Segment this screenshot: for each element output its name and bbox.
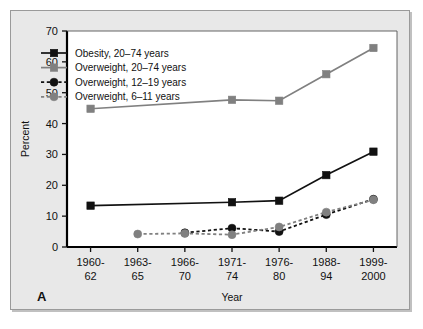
- legend-entry-label: Overweight, 6–11 years: [75, 91, 180, 102]
- series-marker-square: [87, 105, 94, 112]
- x-axis-ticks: 1960-621963-651966-701971-741976-801988-…: [77, 247, 388, 282]
- series-marker-circle: [228, 231, 236, 239]
- legend-entry-label: Obesity, 20–74 years: [75, 48, 169, 59]
- series-marker-square: [228, 199, 235, 206]
- figure-panel: 010203040506070 1960-621963-651966-70197…: [10, 10, 410, 310]
- x-tick-label: 1976-: [265, 256, 293, 268]
- x-tick-label: 70: [179, 270, 191, 282]
- x-tick-label: 1999-: [359, 256, 387, 268]
- series-marker-square: [275, 97, 282, 104]
- x-tick-label: 1963-: [124, 256, 152, 268]
- y-tick-label: 30: [46, 148, 58, 160]
- series-marker-square: [275, 197, 282, 204]
- panel-letter: A: [37, 289, 47, 304]
- y-axis-ticks: 010203040506070: [46, 25, 67, 253]
- x-tick-label: 62: [84, 270, 96, 282]
- x-tick-label: 1960-: [77, 256, 105, 268]
- legend-marker-square: [50, 64, 57, 71]
- x-tick-label: 2000: [361, 270, 385, 282]
- x-tick-label: 65: [132, 270, 144, 282]
- x-tick-label: 1971-: [218, 256, 246, 268]
- y-tick-label: 10: [46, 210, 58, 222]
- legend-entry-label: Overweight, 20–74 years: [75, 62, 186, 73]
- series-marker-circle: [134, 230, 142, 238]
- y-tick-label: 40: [46, 118, 58, 130]
- legend-entry-label: Overweight, 12–19 years: [75, 77, 186, 88]
- series-marker-square: [87, 202, 94, 209]
- x-tick-label: 94: [320, 270, 332, 282]
- y-axis-title: Percent: [19, 121, 31, 157]
- legend-marker-circle: [50, 78, 58, 86]
- legend-marker-square: [50, 49, 57, 56]
- series-marker-square: [323, 171, 330, 178]
- series-marker-circle: [275, 223, 283, 231]
- y-tick-label: 0: [52, 241, 58, 253]
- series-marker-square: [370, 148, 377, 155]
- x-axis-title: Year: [221, 291, 243, 303]
- chart-container: 010203040506070 1960-621963-651966-70197…: [11, 11, 411, 311]
- series-marker-circle: [369, 196, 377, 204]
- legend-marker-circle: [50, 93, 58, 101]
- series-marker-circle: [181, 229, 189, 237]
- x-tick-label: 1988-: [312, 256, 340, 268]
- series-marker-circle: [322, 208, 330, 216]
- x-tick-label: 74: [226, 270, 238, 282]
- x-tick-label: 80: [273, 270, 285, 282]
- series-marker-square: [370, 44, 377, 51]
- series-marker-square: [323, 71, 330, 78]
- y-tick-label: 70: [46, 25, 58, 37]
- series-marker-square: [228, 96, 235, 103]
- line-chart: 010203040506070 1960-621963-651966-70197…: [11, 11, 411, 311]
- y-tick-label: 20: [46, 179, 58, 191]
- x-tick-label: 1966-: [171, 256, 199, 268]
